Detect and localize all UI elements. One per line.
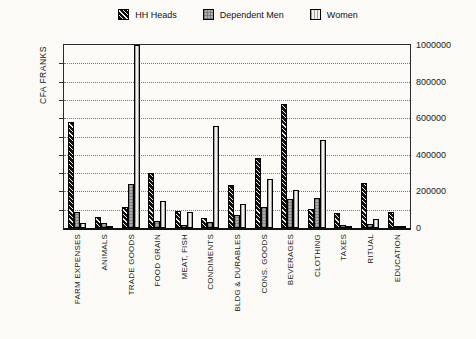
gridline (64, 137, 410, 138)
bar-hh-heads (361, 183, 367, 228)
y-axis-tick (59, 82, 64, 83)
bar-women (80, 223, 86, 228)
y-axis-tick-label: 800000 (416, 77, 446, 87)
y-axis-tick (59, 63, 64, 64)
gridline (64, 118, 410, 119)
bar-hh-heads (148, 173, 154, 228)
gridline (64, 82, 410, 83)
y-axis-tick (59, 210, 64, 211)
x-axis-label: FARM EXPENSES (73, 234, 82, 304)
x-axis-label: TAXES (339, 234, 348, 261)
bar-women (107, 226, 113, 228)
x-axis-label: CLOTHING (313, 234, 322, 277)
x-axis-label: FOOD GRAIN (153, 234, 162, 287)
x-axis-label: BEVERAGES (286, 234, 295, 285)
x-axis-label: CONS. GOODS (260, 234, 269, 294)
legend-item-dependent-men: Dependent Men (203, 9, 284, 20)
gridline (64, 100, 410, 101)
bar-women (187, 212, 193, 228)
y-axis-tick (59, 137, 64, 138)
gridline (64, 63, 410, 64)
y-axis-title: CFA FRANKS (38, 46, 48, 104)
bar-women (400, 226, 406, 228)
bar-women (240, 204, 246, 228)
legend: HH Heads Dependent Men Women (0, 9, 476, 20)
y-axis-tick-label: 1000000 (416, 40, 451, 50)
chart-canvas: HH Heads Dependent Men Women CFA FRANKS … (0, 0, 476, 339)
y-axis-tick-label: 200000 (416, 186, 446, 196)
gridline (64, 191, 410, 192)
x-axis-label: EDUCATION (393, 234, 402, 282)
y-axis-tick (59, 100, 64, 101)
x-axis-label: MEAT, FISH (180, 234, 189, 279)
y-axis-tick-label: 600000 (416, 113, 446, 123)
bar-women (293, 190, 299, 228)
y-axis-tick-label: 0 (416, 223, 421, 233)
bar-women (267, 179, 273, 228)
bar-women (346, 226, 352, 228)
bar-women (213, 126, 219, 228)
bar-women (134, 45, 140, 228)
legend-item-hh-heads: HH Heads (118, 9, 177, 20)
x-axis-label: ANIMALS (100, 234, 109, 271)
y-axis-tick (59, 191, 64, 192)
legend-label: Women (327, 10, 358, 20)
hh-heads-swatch-icon (118, 9, 129, 20)
plot-area (63, 44, 411, 230)
legend-label: HH Heads (135, 10, 177, 20)
gridline (64, 173, 410, 174)
legend-label: Dependent Men (220, 10, 284, 20)
y-axis-tick (59, 173, 64, 174)
y-axis-tick (59, 155, 64, 156)
x-axis-label: RITUAL (366, 234, 375, 264)
x-axis-label: TRADE GOODS (127, 234, 136, 295)
bar-women (373, 219, 379, 228)
bar-women (160, 201, 166, 228)
dependent-men-swatch-icon (203, 9, 214, 20)
x-axis-label: BLDG & DURABLES (233, 234, 242, 312)
x-axis-label: CONDIMENTS (206, 234, 215, 290)
y-axis-tick-label: 400000 (416, 150, 446, 160)
legend-item-women: Women (310, 9, 358, 20)
gridline (64, 155, 410, 156)
gridline (64, 210, 410, 211)
bar-women (320, 140, 326, 228)
y-axis-tick (59, 118, 64, 119)
women-swatch-icon (310, 9, 321, 20)
